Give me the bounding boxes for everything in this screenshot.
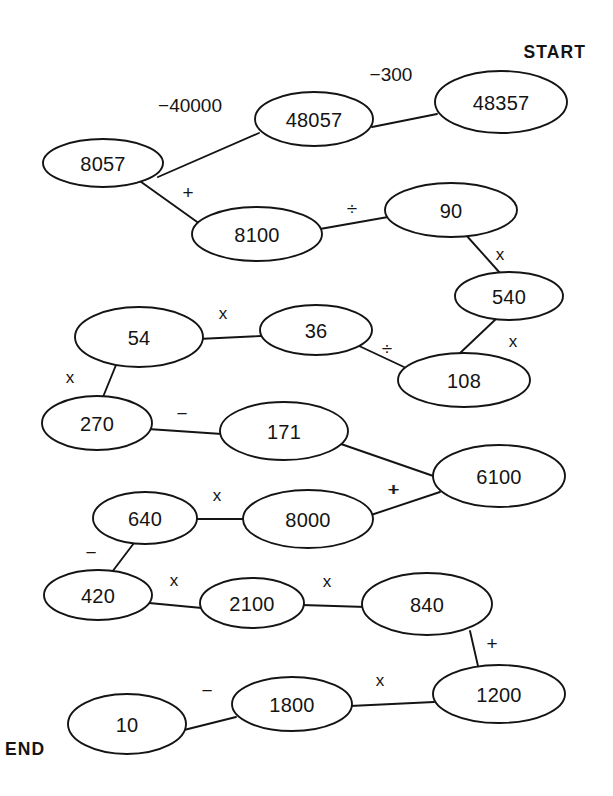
operator-label: −40000 bbox=[158, 95, 222, 116]
edge-connector bbox=[112, 543, 134, 572]
node-value-label: 108 bbox=[447, 370, 481, 392]
edge-connector bbox=[372, 114, 437, 127]
node-36: 36 bbox=[260, 305, 372, 355]
puzzle-page: 4835748057805781009054010836542701716100… bbox=[0, 0, 613, 796]
node-value-label: 640 bbox=[128, 508, 162, 530]
node-value-label: 270 bbox=[80, 413, 114, 435]
node-48357: 48357 bbox=[435, 71, 567, 133]
node-value-label: 10 bbox=[116, 714, 139, 736]
node-48057: 48057 bbox=[255, 92, 373, 146]
node-2100: 2100 bbox=[200, 578, 304, 628]
node-6100: 6100 bbox=[433, 445, 565, 507]
operator-label: x bbox=[213, 486, 222, 505]
operator-label: x bbox=[376, 671, 385, 690]
edge-connector bbox=[302, 605, 366, 607]
operator-label: − bbox=[176, 403, 187, 424]
edge-connector bbox=[103, 365, 116, 397]
node-value-label: 6100 bbox=[476, 466, 521, 488]
node-420: 420 bbox=[44, 570, 152, 620]
operator-label: x bbox=[509, 332, 518, 351]
edge-connector bbox=[148, 429, 222, 434]
end-marker-label: END bbox=[5, 739, 45, 759]
node-1200: 1200 bbox=[433, 665, 565, 723]
operator-label: x bbox=[170, 571, 179, 590]
edge-connector bbox=[357, 345, 404, 367]
operator-label: + bbox=[486, 633, 497, 654]
edge-connector bbox=[341, 444, 442, 479]
operator-label: x bbox=[323, 572, 332, 591]
operator-label: + bbox=[182, 182, 193, 203]
node-640: 640 bbox=[93, 492, 197, 544]
node-54: 54 bbox=[75, 307, 203, 367]
operator-label: x bbox=[219, 304, 228, 323]
node-value-label: 1200 bbox=[476, 684, 521, 706]
operator-label: + bbox=[387, 479, 398, 500]
edge-connector bbox=[158, 133, 259, 177]
node-value-label: 8000 bbox=[285, 509, 330, 531]
node-1800: 1800 bbox=[232, 677, 352, 731]
operator-label: x bbox=[66, 368, 75, 387]
edge-connector bbox=[470, 631, 478, 666]
node-171: 171 bbox=[220, 402, 348, 460]
start-marker-label: START bbox=[523, 42, 586, 62]
node-value-label: 48057 bbox=[286, 109, 343, 131]
node-value-label: 171 bbox=[267, 421, 301, 443]
edge-connector bbox=[198, 336, 261, 339]
operator-label: − bbox=[85, 542, 96, 563]
operator-label: −300 bbox=[370, 64, 413, 85]
node-270: 270 bbox=[42, 396, 152, 450]
edge-connector bbox=[149, 603, 202, 608]
node-108: 108 bbox=[398, 353, 530, 407]
node-value-label: 48357 bbox=[473, 92, 530, 114]
node-8100: 8100 bbox=[192, 207, 322, 261]
number-chain-diagram: 4835748057805781009054010836542701716100… bbox=[0, 0, 613, 796]
operator-label: x bbox=[496, 245, 505, 264]
operator-label: − bbox=[201, 680, 212, 701]
node-90: 90 bbox=[385, 183, 517, 237]
node-8000: 8000 bbox=[243, 490, 373, 548]
node-value-label: 2100 bbox=[229, 593, 274, 615]
node-10: 10 bbox=[68, 694, 186, 754]
node-value-label: 36 bbox=[305, 320, 328, 342]
edge-connector bbox=[371, 492, 440, 515]
node-8057: 8057 bbox=[43, 139, 163, 187]
node-840: 840 bbox=[362, 573, 492, 635]
edge-connector bbox=[350, 702, 434, 706]
node-value-label: 8100 bbox=[234, 224, 279, 246]
node-value-label: 1800 bbox=[269, 694, 314, 716]
edge-connector bbox=[458, 318, 497, 355]
operator-label: ÷ bbox=[382, 338, 392, 359]
node-540: 540 bbox=[455, 272, 563, 320]
edge-connector bbox=[184, 717, 236, 730]
node-value-label: 840 bbox=[410, 594, 444, 616]
node-value-label: 54 bbox=[128, 327, 151, 349]
node-value-label: 90 bbox=[440, 200, 463, 222]
node-value-label: 420 bbox=[81, 585, 115, 607]
node-value-label: 540 bbox=[492, 286, 526, 308]
operator-label: ÷ bbox=[347, 198, 357, 219]
edge-connector bbox=[320, 217, 388, 229]
node-value-label: 8057 bbox=[80, 153, 125, 175]
